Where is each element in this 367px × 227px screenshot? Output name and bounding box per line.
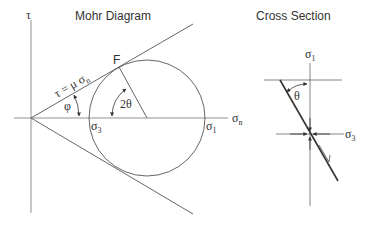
sigma-n-label: σn [232,111,242,127]
diagram-canvas: Mohr Diagram τ σn F τ = μ σn φ 2θ σ3 σ1 … [0,0,367,227]
cross-section: Cross Section σ1 θ σ3 [256,9,355,206]
mohr-diagram: Mohr Diagram τ σn F τ = μ σn φ 2θ σ3 σ1 [14,8,242,214]
lower-failure-envelope [31,118,193,214]
two-theta-label: 2θ [120,97,132,111]
upper-failure-envelope [31,24,193,118]
tau-axis-label: τ [26,8,31,22]
cs-sigma1-label: σ1 [305,47,315,63]
theta-label: θ [294,89,300,103]
slip-indicator-tip [329,155,330,162]
sigma3-label: σ3 [91,119,101,135]
phi-label: φ [64,99,71,113]
mohr-title: Mohr Diagram [75,9,151,23]
cs-sigma3-label: σ3 [345,127,355,143]
sigma1-label: σ1 [206,119,216,135]
phi-arc [74,95,79,116]
failure-point-label: F [113,53,120,67]
fault-plane [280,80,338,181]
cross-section-title: Cross Section [256,9,331,23]
slip-indicator [319,145,329,162]
